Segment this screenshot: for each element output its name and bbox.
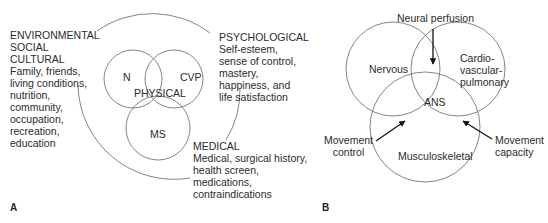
ans-label: ANS: [424, 96, 446, 108]
heading-line: MEDICAL: [193, 140, 307, 152]
detail-line: health screen,: [193, 164, 307, 176]
musculoskeletal-label: Musculoskeletal: [398, 150, 473, 162]
detail-line: Self-esteem,: [219, 43, 309, 55]
detail-line: medications,: [193, 176, 307, 188]
detail-line: living conditions,: [10, 77, 100, 89]
cvp-line: vascular-: [460, 64, 509, 76]
circle-n-label: N: [123, 71, 131, 83]
physical-label: PHYSICAL: [134, 87, 186, 99]
detail-line: community,: [10, 101, 100, 113]
cvp-b-label: Cardio- vascular- pulmonary: [460, 52, 509, 88]
detail-line: nutrition,: [10, 89, 100, 101]
outer-arc-top: [97, 14, 210, 33]
heading-line: SOCIAL: [10, 41, 100, 53]
panel-a-label: A: [10, 202, 17, 213]
detail-line: contraindications: [193, 188, 307, 200]
circle-cvp-label: CVP: [180, 71, 202, 83]
label-line: control: [324, 146, 373, 158]
heading-line: ENVIRONMENTAL: [10, 29, 100, 41]
environmental-label: ENVIRONMENTAL SOCIAL CULTURAL Family, fr…: [10, 29, 100, 149]
arrow-movement-control: [376, 121, 405, 141]
circle-musculoskeletal: [370, 72, 480, 182]
cvp-line: pulmonary: [460, 76, 509, 88]
detail-line: occupation,: [10, 113, 100, 125]
arrow-movement-capacity: [463, 121, 492, 139]
detail-line: mastery,: [219, 67, 309, 79]
heading-line: CULTURAL: [10, 53, 100, 65]
label-line: Movement: [495, 134, 544, 146]
psychological-label: PSYCHOLOGICAL Self-esteem, sense of cont…: [219, 31, 309, 103]
panel-b-label: B: [322, 202, 329, 213]
detail-line: sense of control,: [219, 55, 309, 67]
movement-capacity-label: Movement capacity: [495, 134, 544, 158]
neural-perfusion-label: Neural perfusion: [397, 12, 474, 24]
movement-control-label: Movement control: [324, 134, 373, 158]
cvp-line: Cardio-: [460, 52, 509, 64]
detail-line: life satisfaction: [219, 91, 309, 103]
detail-line: recreation,: [10, 125, 100, 137]
heading-line: PSYCHOLOGICAL: [219, 31, 309, 43]
detail-line: Family, friends,: [10, 65, 100, 77]
circle-ms-label: MS: [150, 128, 166, 140]
detail-line: education: [10, 137, 100, 149]
label-line: capacity: [495, 146, 544, 158]
medical-label: MEDICAL Medical, surgical history, healt…: [193, 140, 307, 200]
nervous-label: Nervous: [369, 63, 408, 75]
label-line: Movement: [324, 134, 373, 146]
detail-line: Medical, surgical history,: [193, 152, 307, 164]
detail-line: happiness, and: [219, 79, 309, 91]
